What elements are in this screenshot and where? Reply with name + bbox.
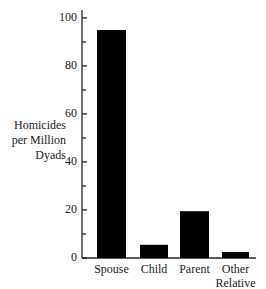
y-axis-label: Homicidesper MillionDyads bbox=[12, 118, 66, 163]
bar-spouse bbox=[97, 30, 126, 258]
x-tick-label: OtherRelative bbox=[206, 262, 266, 289]
bar-other-relative bbox=[222, 252, 249, 258]
y-tick-label: 20 bbox=[47, 202, 77, 217]
y-tick-label: 100 bbox=[47, 10, 77, 25]
chart: 020406080100SpouseChildParentOtherRelati… bbox=[0, 0, 263, 289]
bar-parent bbox=[180, 211, 209, 258]
bar-child bbox=[140, 245, 168, 258]
y-tick-label: 80 bbox=[47, 58, 77, 73]
y-tick-label: 0 bbox=[47, 250, 77, 265]
